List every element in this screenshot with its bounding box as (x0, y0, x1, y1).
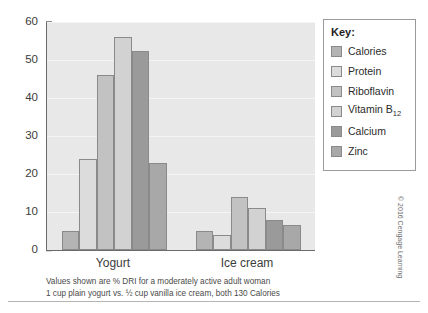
bar (283, 225, 301, 250)
bar-group (62, 22, 167, 250)
y-tick-label: 0 (32, 244, 38, 256)
y-tick-label: 60 (25, 16, 38, 28)
legend-item: Calories (331, 41, 415, 61)
y-tick-label: 30 (25, 130, 38, 142)
y-axis: 0102030405060 (0, 0, 46, 250)
legend-item: Vitamin B12 (331, 101, 415, 121)
bar (213, 235, 231, 250)
plot-area (46, 22, 315, 251)
legend-swatch (331, 66, 342, 77)
y-tick-label: 20 (25, 168, 38, 180)
y-tick-label: 40 (25, 92, 38, 104)
x-axis-label: Ice cream (221, 256, 274, 270)
legend: Key: CaloriesProteinRiboflavinVitamin B1… (323, 19, 416, 171)
bar-group (196, 22, 301, 250)
legend-swatch (331, 106, 342, 117)
legend-item: Protein (331, 61, 415, 81)
legend-item: Riboflavin (331, 81, 415, 101)
legend-title: Key: (331, 26, 415, 38)
x-axis-label: Yogurt (96, 256, 130, 270)
legend-item-label: Protein (348, 65, 381, 77)
figure: 0102030405060 YogurtIce cream Key: Calor… (0, 0, 428, 313)
y-tick-label: 10 (25, 206, 38, 218)
legend-swatch (331, 46, 342, 57)
chart-caption: Values shown are % DRI for a moderately … (46, 276, 336, 300)
caption-line-2: 1 cup plain yogurt vs. ½ cup vanilla ice… (46, 288, 336, 300)
bar (266, 220, 284, 250)
legend-swatch (331, 86, 342, 97)
bar (248, 208, 266, 250)
bar (196, 231, 214, 250)
bar (97, 75, 115, 250)
legend-item-label: Vitamin B12 (348, 103, 401, 118)
legend-swatch (331, 126, 342, 137)
legend-item-label: Calcium (348, 125, 386, 137)
legend-swatch (331, 146, 342, 157)
legend-item: Calcium (331, 121, 415, 141)
legend-rows: CaloriesProteinRiboflavinVitamin B12Calc… (331, 41, 415, 161)
bar (231, 197, 249, 250)
bar (132, 51, 150, 251)
bar (149, 163, 167, 250)
legend-item: Zinc (331, 141, 415, 161)
legend-item-label: Riboflavin (348, 85, 394, 97)
legend-item-label: Calories (348, 45, 387, 57)
caption-line-1: Values shown are % DRI for a moderately … (46, 276, 336, 288)
bar (79, 159, 97, 250)
y-tick-label: 50 (25, 54, 38, 66)
bar (62, 231, 80, 250)
legend-item-label: Zinc (348, 145, 368, 157)
bottom-divider (8, 301, 420, 302)
copyright-credit: © 2016 Cengage Learning (397, 196, 404, 278)
bar (114, 37, 132, 250)
